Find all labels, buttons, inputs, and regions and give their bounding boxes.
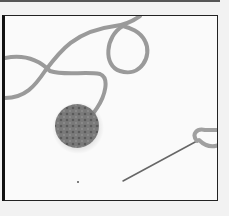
- top-rule: [0, 0, 220, 2]
- photo-frame: [2, 15, 218, 201]
- crochet-circle: [55, 104, 99, 148]
- speck: [77, 181, 79, 183]
- needle: [123, 141, 197, 181]
- yarn-needle-loop: [195, 130, 218, 146]
- photo-illustration: [5, 16, 218, 201]
- yarn-loop: [108, 26, 147, 72]
